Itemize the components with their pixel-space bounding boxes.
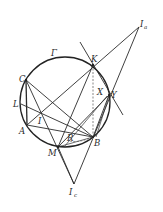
chord-c-a [26,80,27,125]
label-r: R [66,133,74,143]
line-ia-ic [74,27,139,184]
label-k: K [90,54,98,64]
label-c: C [19,74,26,84]
label-x: X [96,87,104,97]
line-ia-a [27,27,139,125]
label-a: A [18,126,25,136]
geometry-figure: Γ I a K C L I A X Y R B M I c [0,0,163,212]
point-y [108,94,110,96]
label-ic: I [68,187,73,197]
label-b: B [93,138,100,148]
label-gamma: Γ [50,48,58,58]
label-m: M [47,148,57,158]
diagram-canvas: Γ I a K C L I A X Y R B M I c [0,0,163,212]
line-m-ic [58,147,74,184]
label-ic-sub: c [74,192,77,198]
line-k-y [80,42,123,115]
label-y: Y [111,90,118,100]
point-k [92,64,94,66]
point-m [57,146,59,148]
label-ia-sub: a [144,24,147,30]
label-i: I [37,116,42,126]
label-l: L [12,99,19,109]
line-a-b [27,125,93,137]
line-b-y [93,95,109,137]
